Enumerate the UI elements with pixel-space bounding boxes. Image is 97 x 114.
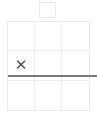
board-cell-0-0[interactable] — [8, 22, 35, 51]
board-cell-2-2[interactable] — [62, 81, 89, 110]
board-cell-2-0[interactable] — [8, 81, 35, 110]
horizontal-divider — [8, 75, 97, 77]
board-cell-0-2[interactable] — [62, 22, 89, 51]
board-cell-2-1[interactable] — [35, 81, 62, 110]
empty-square-indicator[interactable] — [39, 2, 56, 18]
board-container: ✕ — [0, 0, 97, 114]
board-cell-0-1[interactable] — [35, 22, 62, 51]
tic-tac-toe-board: ✕ — [7, 21, 90, 111]
board-grid: ✕ — [8, 22, 89, 110]
